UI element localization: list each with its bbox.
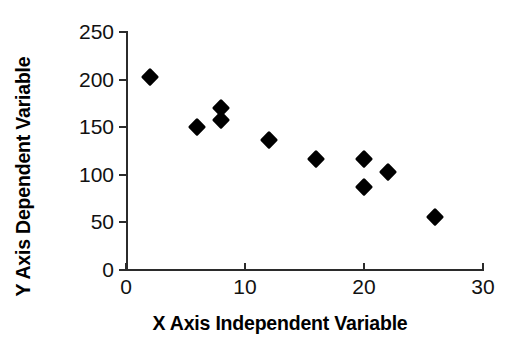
plot-area [126,32,483,270]
x-axis-tick-label: 20 [334,276,394,297]
x-axis-tick-label: 30 [453,276,513,297]
y-axis-tick-labels: 050100150200250 [40,0,114,353]
y-axis-tick-label: 200 [44,69,114,90]
x-axis-tick-label: 0 [96,276,156,297]
scatter-plot-figure: Y Axis Dependent Variable 05010015020025… [0,0,532,353]
y-axis-tick-label: 150 [44,116,114,137]
data-point [212,110,230,128]
data-point [141,68,159,86]
x-axis-title: X Axis Independent Variable [70,312,490,335]
data-point [260,130,278,148]
data-point [355,149,373,167]
y-axis-tick-label: 250 [44,21,114,42]
data-point [307,149,325,167]
x-axis-tick-label: 10 [215,276,275,297]
data-point [188,118,206,136]
data-point [355,178,373,196]
data-point [379,163,397,181]
data-point [426,207,444,225]
y-axis-tick-label: 100 [44,164,114,185]
y-axis-tick-label: 50 [44,211,114,232]
